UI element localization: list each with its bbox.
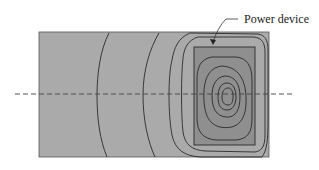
power-device-label: Power device xyxy=(244,12,309,26)
thermal-contour-diagram: Power device xyxy=(0,0,319,170)
